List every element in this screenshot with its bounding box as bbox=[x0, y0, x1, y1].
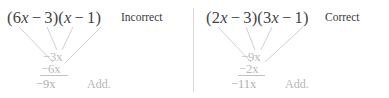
sum-correct: −11x bbox=[231, 77, 256, 92]
panel-divider bbox=[193, 8, 194, 92]
add-label-incorrect: Add. bbox=[87, 77, 111, 92]
inner-connector-right bbox=[261, 27, 272, 50]
verdict-label-incorrect: Incorrect bbox=[121, 11, 163, 23]
inner-connector-left bbox=[246, 27, 255, 50]
first-factor-coefficient: 6 bbox=[13, 8, 21, 27]
first-factor-variable: x bbox=[220, 8, 228, 27]
second-factor-operator: − bbox=[279, 8, 295, 27]
sum-rule-incorrect bbox=[40, 75, 68, 76]
add-label-correct: Add. bbox=[285, 77, 309, 92]
inner-connector-left bbox=[47, 27, 57, 50]
expression-incorrect: (6x−3)(x−1) bbox=[7, 8, 101, 28]
outer-connector-right bbox=[66, 27, 101, 62]
first-factor-operator: − bbox=[228, 8, 244, 27]
second-factor-constant: 1 bbox=[295, 8, 303, 27]
second-factor-operator: − bbox=[72, 8, 88, 27]
inner-connector-right bbox=[62, 27, 73, 50]
expression-correct: (2x−3)(3x−1) bbox=[206, 8, 309, 28]
outer-connector-right bbox=[265, 27, 303, 62]
foil-comparison-figure: (6x−3)(x−1) Incorrect −3x −6x −9x Add. (… bbox=[0, 0, 389, 98]
first-factor-coefficient: 2 bbox=[212, 8, 220, 27]
second-factor-constant: 1 bbox=[87, 8, 95, 27]
sum-incorrect: −9x bbox=[36, 77, 56, 92]
second-factor-coefficient: 3 bbox=[263, 8, 271, 27]
second-factor-variable: x bbox=[64, 8, 72, 27]
second-factor-variable: x bbox=[272, 8, 280, 27]
sum-rule-correct bbox=[238, 75, 265, 76]
second-factor-close-paren: ) bbox=[303, 8, 309, 27]
first-factor-constant: 3 bbox=[243, 8, 251, 27]
first-factor-variable: x bbox=[21, 8, 29, 27]
verdict-label-correct: Correct bbox=[325, 11, 359, 23]
second-factor-close-paren: ) bbox=[96, 8, 102, 27]
panel-incorrect: (6x−3)(x−1) Incorrect −3x −6x −9x Add. bbox=[0, 0, 193, 98]
first-factor-constant: 3 bbox=[44, 8, 52, 27]
first-factor-operator: − bbox=[29, 8, 45, 27]
panel-correct: (2x−3)(3x−1) Correct −9x −2x −11x Add. bbox=[196, 0, 389, 98]
